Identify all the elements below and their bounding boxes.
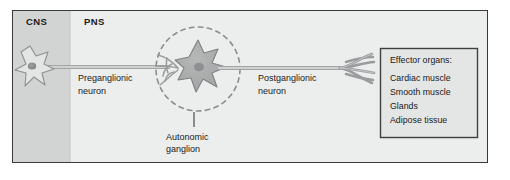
effector-item-1: Smooth muscle: [390, 87, 451, 97]
postganglionic-label-line2: neuron: [258, 86, 286, 96]
pns-label: PNS: [84, 16, 105, 27]
ganglion-label-line1: Autonomic: [166, 132, 209, 142]
effector-item-0: Cardiac muscle: [390, 73, 451, 83]
effector-item-3: Adipose tissue: [390, 115, 447, 125]
diagram-container: Autonomic nervous system two-neuron path…: [0, 0, 510, 180]
effector-box-heading: Effector organs:: [390, 55, 452, 65]
cns-soma-nucleus: [28, 62, 36, 69]
preganglionic-label-line2: neuron: [78, 86, 106, 96]
postganglionic-label-line1: Postganglionic: [258, 73, 317, 83]
ganglion-label-line2: ganglion: [166, 144, 200, 154]
ganglion-soma-nucleus: [194, 63, 204, 71]
effector-item-2: Glands: [390, 101, 418, 111]
cns-label: CNS: [26, 16, 47, 27]
preganglionic-label-line1: Preganglionic: [78, 73, 133, 83]
autonomic-pathway-diagram: Autonomic nervous system two-neuron path…: [0, 0, 510, 180]
